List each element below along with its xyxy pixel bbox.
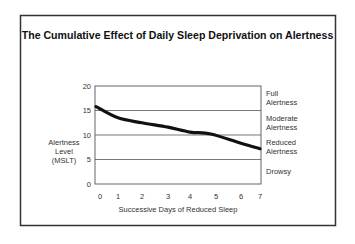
x-tick-label: 6 <box>239 192 243 201</box>
y-tick-label: 5 <box>87 155 91 164</box>
y-tick-label: 15 <box>83 106 91 115</box>
y-axis-label-line: Level <box>55 147 73 156</box>
y-tick-label: 20 <box>83 82 91 91</box>
zone-label: Alertness <box>266 123 298 132</box>
y-tick-label: 10 <box>83 131 91 140</box>
zone-label: Moderate <box>266 114 298 123</box>
y-axis-label: AlertnessLevel(MSLT) <box>48 138 80 165</box>
y-axis-label-line: Alertness <box>48 138 80 147</box>
series-line-alertness <box>96 107 260 149</box>
line-chart: The Cumulative Effect of Daily Sleep Dep… <box>0 0 355 244</box>
x-tick-label: 0 <box>98 192 102 201</box>
zone-label: Drowsy <box>266 167 291 176</box>
x-tick-label: 5 <box>214 192 218 201</box>
zone-label: Alertness <box>266 98 298 107</box>
y-tick-label: 0 <box>87 180 91 189</box>
chart-title: The Cumulative Effect of Daily Sleep Dep… <box>22 29 334 41</box>
x-axis-ticks: 01234567 <box>98 192 262 201</box>
plot-area <box>95 86 261 184</box>
x-tick-label: 4 <box>188 192 192 201</box>
x-tick-label: 1 <box>116 192 120 201</box>
x-tick-label: 3 <box>166 192 170 201</box>
x-axis-label: Successive Days of Reduced Sleep <box>119 205 238 214</box>
x-tick-label: 2 <box>140 192 144 201</box>
zone-label: Reduced <box>266 138 296 147</box>
zone-label: Alertness <box>266 147 298 156</box>
zone-labels: FullAlertnessModerateAlertnessReducedAle… <box>266 89 298 176</box>
zone-label: Full <box>266 89 278 98</box>
y-axis-ticks: 05101520 <box>83 82 91 189</box>
x-tick-label: 7 <box>258 192 262 201</box>
y-axis-label-line: (MSLT) <box>52 156 77 165</box>
